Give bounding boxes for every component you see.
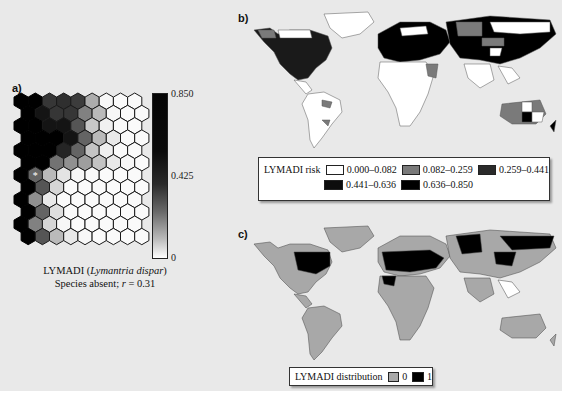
colorbar-mid-label: 0.425: [171, 170, 194, 181]
colorbar-min-label: 0: [171, 252, 176, 263]
som-hexagon-cell: [35, 228, 49, 244]
distribution-legend-title: LYMADI distribution: [295, 371, 383, 382]
som-hexagon-cell: [92, 228, 106, 244]
legend-swatch-absent: [388, 372, 400, 382]
som-hexagon-cell: [135, 228, 149, 244]
panel-a-caption-stat: Species absent; r = 0.31: [0, 277, 210, 290]
legend-range-2: 0.259–0.441: [499, 164, 549, 175]
som-hexagon-cell: [121, 228, 135, 244]
distribution-legend: LYMADI distribution 0 1: [289, 367, 433, 386]
som-hexagon-grid: *: [10, 90, 152, 262]
caption-prefix: LYMADI (: [43, 265, 90, 276]
world-map-distribution: [250, 222, 560, 362]
colorbar-max-label: 0.850: [171, 88, 194, 99]
risk-legend-title: LYMADI risk: [264, 164, 321, 175]
panel-a-caption-title: LYMADI (Lymantria dispar): [0, 264, 210, 277]
species-marker-icon: *: [33, 170, 38, 181]
world-map-risk: [250, 8, 560, 158]
legend-swatch-0: [326, 165, 344, 175]
caption-suffix: ): [163, 265, 167, 276]
legend-range-4: 0.636–0.850: [423, 179, 473, 190]
legend-swatch-2: [478, 165, 496, 175]
legend-swatch-3: [324, 180, 343, 190]
som-hexagon-cell: [50, 228, 64, 244]
species-name: Lymantria dispar: [90, 265, 163, 276]
legend-swatch-present: [412, 372, 424, 382]
colorbar: [152, 93, 168, 259]
som-hexagon-cell: [106, 228, 120, 244]
som-hexagon-cell: [64, 228, 78, 244]
som-hexagon-cell: [21, 228, 35, 244]
legend-range-0: 0.000–0.082: [347, 164, 397, 175]
legend-value-0: 0: [402, 371, 407, 382]
panel-b-label: b): [238, 12, 248, 24]
legend-value-1: 1: [427, 371, 432, 382]
som-hexagon-cell: [78, 228, 92, 244]
risk-legend: LYMADI risk 0.000–0.082 0.082–0.259 0.25…: [258, 157, 550, 201]
legend-swatch-1: [402, 165, 420, 175]
legend-range-3: 0.441–0.636: [346, 179, 396, 190]
legend-swatch-4: [401, 180, 420, 190]
panel-c-label: c): [238, 228, 248, 240]
caption-stat-prefix: Species absent;: [55, 278, 122, 289]
legend-range-1: 0.082–0.259: [423, 164, 473, 175]
r-value: = 0.31: [126, 278, 156, 289]
